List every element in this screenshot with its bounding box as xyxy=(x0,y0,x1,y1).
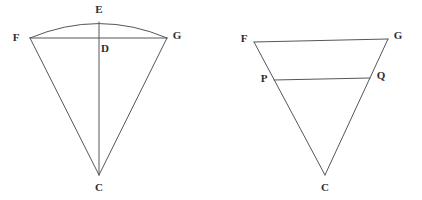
vertex-label-f-left: F xyxy=(13,31,20,43)
radius-cf xyxy=(30,38,99,175)
geometry-figure-board: F G E D C F G P Q C xyxy=(0,0,422,200)
vertex-label-d-left: D xyxy=(101,42,109,54)
right-figure-group: F G P Q C xyxy=(241,29,403,193)
vertex-label-p-right: P xyxy=(261,72,268,84)
geometry-canvas: F G E D C F G P Q C xyxy=(0,0,422,200)
radius-cg xyxy=(99,38,167,175)
vertex-label-c-right: C xyxy=(321,181,329,193)
left-figure-group: F G E D C xyxy=(13,3,182,193)
vertex-label-f-right: F xyxy=(241,32,248,44)
vertex-label-e-left: E xyxy=(95,3,102,15)
side-fg-right xyxy=(254,39,388,42)
side-gc-right xyxy=(325,39,388,175)
side-fc-right xyxy=(254,42,325,175)
vertex-label-g-right: G xyxy=(394,29,403,41)
vertex-label-c-left: C xyxy=(95,181,103,193)
vertex-label-q-right: Q xyxy=(377,69,386,81)
midline-pq-right xyxy=(274,78,370,80)
vertex-label-g-left: G xyxy=(173,29,182,41)
